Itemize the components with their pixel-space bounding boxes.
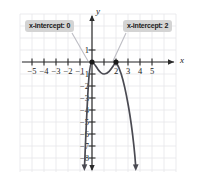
y-axis-arrow [89, 15, 94, 21]
x-tick-label: 5 [150, 66, 154, 76]
x-tick-label: −5 [27, 66, 36, 76]
y-tick-label: −1 [80, 69, 89, 79]
x-tick-label: 3 [126, 66, 130, 76]
x-tick-label: −3 [51, 66, 60, 76]
y-axis-label: y [95, 6, 100, 16]
x-tick-label: 2 [114, 66, 118, 76]
grid-lines [20, 14, 176, 172]
graph-figure: −5 −4 −3 −2 −1 2 3 4 5 1 −1 −2 −3 −4 −5 … [0, 0, 197, 188]
x-intercept-point-2 [113, 59, 118, 64]
x-intercept-point-0 [89, 59, 94, 64]
x-tick-label: −4 [39, 66, 49, 76]
y-tick-label: −6 [80, 129, 89, 139]
x-axis-arrow [168, 59, 174, 64]
leader-line-right [113, 33, 126, 61]
axis-arrowheads [89, 15, 174, 171]
axes [22, 16, 174, 170]
callout-x-intercept-2: x-intercept: 2 [123, 20, 172, 32]
x-tick-label: 4 [138, 66, 143, 76]
x-axis-label: x [179, 55, 184, 65]
callout-x-intercept-0: x-intercept: 0 [25, 20, 74, 32]
y-tick-label: −5 [80, 117, 89, 127]
y-tick-label: −4 [80, 105, 90, 115]
x-tick-label: −2 [63, 66, 72, 76]
y-tick-label: 1 [85, 45, 89, 55]
